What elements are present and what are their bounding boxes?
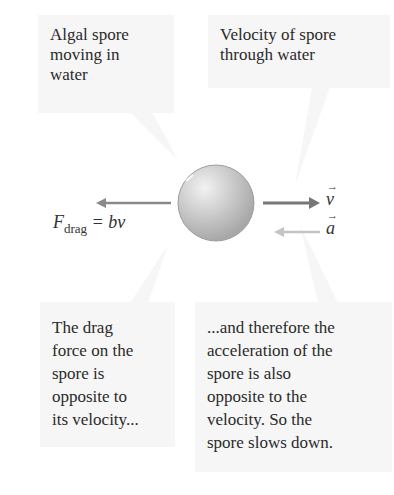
vector-arrow-icon: → — [327, 180, 338, 192]
callout-velocity: Velocity of spore through water — [208, 15, 390, 88]
callout-drag-force: The drag force on the spore is opposite … — [40, 302, 175, 447]
callout-pointer-top-right — [295, 87, 330, 185]
callout-text: Algal spore moving in water — [50, 25, 162, 85]
callout-text: ...and therefore the acceleration of the… — [207, 316, 380, 454]
velocity-vector-label: v → — [326, 189, 334, 210]
callout-text: Velocity of spore through water — [220, 25, 378, 65]
callout-algal-spore: Algal spore moving in water — [38, 15, 174, 113]
velocity-arrow — [263, 197, 320, 209]
callout-pointer-bottom-left — [130, 245, 168, 303]
spore-sphere — [178, 165, 254, 241]
acceleration-arrow — [274, 227, 320, 237]
drag-force-arrow — [96, 198, 171, 208]
acceleration-vector-label: a → — [326, 218, 335, 239]
callout-acceleration: ...and therefore the acceleration of the… — [195, 302, 392, 472]
callout-text: The drag force on the spore is opposite … — [52, 316, 163, 431]
vector-arrow-icon: → — [327, 209, 338, 221]
callout-pointer-top-left — [130, 112, 178, 160]
drag-force-label: Fdrag = bv — [53, 212, 125, 237]
